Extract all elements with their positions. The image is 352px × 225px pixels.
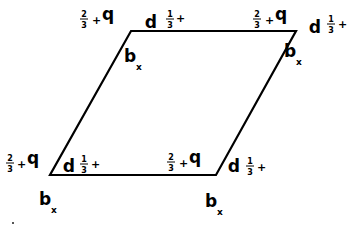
- stray-mark: [12, 222, 14, 224]
- label-b-bottom-left: b x: [39, 189, 57, 215]
- svg-text:b: b: [284, 41, 296, 61]
- svg-text:3: 3: [254, 21, 260, 30]
- svg-text:b: b: [205, 191, 217, 211]
- svg-text:1: 1: [167, 10, 173, 19]
- svg-text:1: 1: [328, 15, 334, 24]
- svg-text:x: x: [296, 57, 302, 67]
- svg-text:q: q: [189, 147, 201, 167]
- svg-text:+: +: [176, 12, 185, 25]
- svg-text:q: q: [275, 4, 287, 24]
- svg-text:b: b: [124, 46, 136, 66]
- label-q-bottom-left: 2 3 + q: [6, 148, 39, 174]
- svg-text:x: x: [136, 62, 142, 72]
- svg-text:3: 3: [81, 21, 87, 30]
- svg-text:x: x: [51, 205, 57, 215]
- svg-text:+: +: [91, 158, 100, 171]
- svg-text:x: x: [217, 207, 223, 217]
- svg-text:1: 1: [247, 157, 253, 166]
- svg-text:b: b: [39, 189, 51, 209]
- svg-text:3: 3: [167, 21, 173, 30]
- label-p-top-right: p 1 3 +: [309, 15, 347, 39]
- label-p-bottom-right: p 1 3 +: [228, 157, 266, 178]
- svg-text:3: 3: [168, 164, 174, 173]
- label-b-bottom-right: b x: [205, 191, 223, 217]
- svg-text:1: 1: [81, 155, 87, 164]
- svg-text:3: 3: [247, 168, 253, 177]
- label-q-top-right: 2 3 + q: [253, 4, 287, 30]
- svg-text:p: p: [228, 158, 240, 178]
- svg-text:p: p: [145, 14, 157, 34]
- label-q-bottom-right: 2 3 + q: [167, 147, 201, 173]
- svg-text:2: 2: [7, 154, 13, 163]
- svg-text:3: 3: [328, 26, 334, 35]
- svg-text:3: 3: [7, 165, 13, 174]
- svg-text:q: q: [102, 4, 114, 24]
- svg-text:2: 2: [81, 10, 87, 19]
- svg-text:p: p: [309, 19, 321, 39]
- svg-text:+: +: [92, 14, 101, 27]
- parallelogram-diagram: 2 3 + q p 1 3 + b x 2 3 + q p 1 3 + b x …: [0, 0, 352, 225]
- svg-text:q: q: [27, 148, 39, 168]
- svg-text:+: +: [257, 161, 266, 174]
- svg-text:2: 2: [168, 153, 174, 162]
- svg-text:+: +: [17, 158, 26, 171]
- svg-text:+: +: [338, 18, 347, 31]
- label-b-top-left: b x: [124, 46, 142, 72]
- svg-text:3: 3: [81, 166, 87, 175]
- svg-text:+: +: [265, 14, 274, 27]
- label-b-top-right: b x: [284, 41, 302, 67]
- svg-text:p: p: [63, 158, 75, 178]
- svg-text:+: +: [179, 157, 188, 170]
- label-q-top-left: 2 3 + q: [80, 4, 114, 30]
- svg-text:2: 2: [254, 10, 260, 19]
